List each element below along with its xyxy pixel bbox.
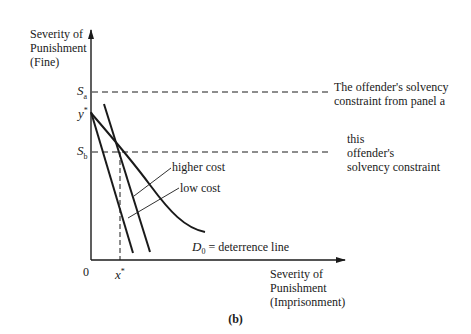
sa-annotation: The offender's solvency constraint from … [334, 80, 449, 108]
sa-tick-label: Sa [77, 84, 87, 104]
higher-cost-label: higher cost [172, 160, 225, 174]
ystar-tick-label: y* [78, 104, 88, 121]
low-cost-label: low cost [180, 181, 220, 195]
origin-label: 0 [83, 265, 89, 279]
sb-tick-label: Sb [77, 144, 88, 164]
x-axis-label: Severity of Punishment (Imprisonment) [270, 267, 345, 309]
sb-annotation: this offender's solvency constraint [347, 132, 440, 174]
panel-caption: (b) [0, 312, 471, 327]
d0-label: D0 = deterrence line [192, 240, 289, 259]
low-cost-line [91, 112, 133, 253]
y-axis-label: Severity of Punishment (Fine) [30, 27, 87, 69]
xstar-tick-label: x* [115, 265, 125, 282]
